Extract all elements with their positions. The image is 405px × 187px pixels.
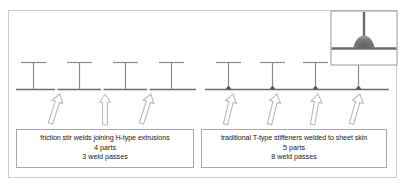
- right-t-stiffener-group: [205, 63, 389, 126]
- left-h-extrusion-group: [16, 63, 196, 126]
- weld-arrow-4: [346, 92, 365, 125]
- caption-right-title: traditional T-type stiffeners welded to …: [202, 134, 386, 142]
- weld-fillet-detail-inset: [331, 11, 397, 65]
- weld-comparison-figure: friction stir welds joining H-type extru…: [0, 0, 405, 187]
- fsw-arrow-2: [99, 94, 110, 125]
- h-stiffener-3: [113, 63, 138, 90]
- caption-box-friction-stir: friction stir welds joining H-type extru…: [16, 129, 194, 168]
- weld-arrow-1: [220, 93, 238, 126]
- weld-arrow-3: [307, 93, 323, 125]
- h-stiffener-2: [67, 63, 92, 90]
- fsw-arrow-1: [45, 92, 65, 125]
- weld-arrow-2: [264, 93, 282, 126]
- h-stiffener-1: [21, 63, 46, 90]
- caption-right-passes: 8 weld passes: [202, 153, 386, 162]
- t-stiffener-1: [216, 63, 241, 90]
- t-stiffener-2: [260, 63, 285, 90]
- t-stiffener-3: [303, 63, 328, 90]
- caption-box-traditional-t: traditional T-type stiffeners welded to …: [201, 129, 387, 168]
- fsw-arrow-3: [136, 92, 156, 125]
- h-stiffener-4: [159, 63, 184, 90]
- caption-left-title: friction stir welds joining H-type extru…: [17, 134, 193, 142]
- caption-left-passes: 3 weld passes: [17, 153, 193, 162]
